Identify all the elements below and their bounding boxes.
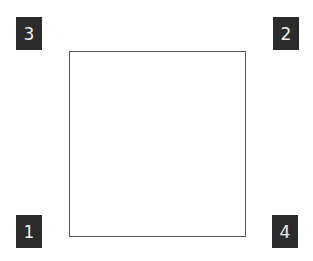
corner-label-top-left: 3 [16,17,42,50]
corner-label-bottom-left: 1 [16,215,42,248]
corner-label-bottom-right: 4 [272,215,298,248]
corner-label-top-right: 2 [273,17,299,50]
square-outline [69,51,246,237]
